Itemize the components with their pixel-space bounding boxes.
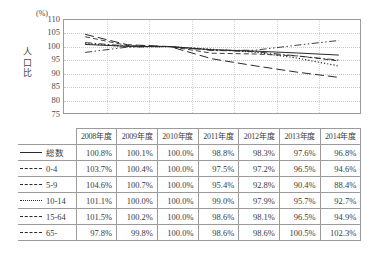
table-row: 10-14101.1%100.0%100.0%99.0%97.9%95.7%92… xyxy=(18,193,361,209)
table-row: 総数100.8%100.1%100.0%98.8%98.3%97.6%96.8% xyxy=(18,145,361,161)
series-label: 10-14 xyxy=(46,196,66,206)
line-style-swatch-icon xyxy=(20,200,42,201)
line-style-swatch-icon xyxy=(20,152,42,153)
series-label: 15-64 xyxy=(46,212,66,222)
cell-65--2008年度: 97.8% xyxy=(76,225,117,241)
cell-0-4-2014年度: 94.6% xyxy=(320,161,361,177)
cell-15-64-2011年度: 98.6% xyxy=(198,209,239,225)
series-line-3 xyxy=(85,43,339,65)
cell-総数-2010年度: 100.0% xyxy=(157,145,198,161)
cell-0-4-2013年度: 96.5% xyxy=(279,161,320,177)
cell-15-64-2013年度: 96.5% xyxy=(279,209,320,225)
cell-65--2013年度: 100.5% xyxy=(279,225,320,241)
cell-65--2010年度: 100.0% xyxy=(157,225,198,241)
y-axis-tick: 110 xyxy=(36,14,60,23)
cell-5-9-2010年度: 100.0% xyxy=(157,177,198,193)
cell-65--2009年度: 99.8% xyxy=(117,225,158,241)
table-row: 5-9104.6%100.7%100.0%95.4%92.8%90.4%88.4… xyxy=(18,177,361,193)
legend-cell-15-64: 15-64 xyxy=(18,209,76,225)
cell-10-14-2012年度: 97.9% xyxy=(239,193,280,209)
cell-10-14-2009年度: 100.0% xyxy=(117,193,158,209)
cell-15-64-2009年度: 100.2% xyxy=(117,209,158,225)
cell-5-9-2008年度: 104.6% xyxy=(76,177,117,193)
cell-10-14-2014年度: 92.7% xyxy=(320,193,361,209)
column-header-2013年度: 2013年度 xyxy=(279,129,320,145)
y-axis-tick: 105 xyxy=(36,28,60,37)
cell-15-64-2014年度: 94.9% xyxy=(320,209,361,225)
cell-総数-2011年度: 98.8% xyxy=(198,145,239,161)
cell-0-4-2009年度: 100.4% xyxy=(117,161,158,177)
table-corner-cell xyxy=(18,129,76,145)
column-header-2010年度: 2010年度 xyxy=(157,129,198,145)
cell-10-14-2011年度: 99.0% xyxy=(198,193,239,209)
legend-cell-65-: 65- xyxy=(18,225,76,241)
cell-総数-2013年度: 97.6% xyxy=(279,145,320,161)
column-header-2008年度: 2008年度 xyxy=(76,129,117,145)
line-style-swatch-icon xyxy=(20,216,42,217)
cell-15-64-2010年度: 100.0% xyxy=(157,209,198,225)
plot-area xyxy=(63,19,361,114)
legend-cell-10-14: 10-14 xyxy=(18,193,76,209)
series-label: 総数 xyxy=(46,148,64,158)
cell-15-64-2012年度: 98.1% xyxy=(239,209,280,225)
cell-10-14-2008年度: 101.1% xyxy=(76,193,117,209)
cell-5-9-2013年度: 90.4% xyxy=(279,177,320,193)
cell-65--2011年度: 98.6% xyxy=(198,225,239,241)
cell-5-9-2012年度: 92.8% xyxy=(239,177,280,193)
series-label: 5-9 xyxy=(46,180,57,190)
y-axis-title-char: 口 xyxy=(22,58,33,69)
y-axis-tick: 75 xyxy=(36,109,60,118)
series-label: 0-4 xyxy=(46,164,57,174)
column-header-2014年度: 2014年度 xyxy=(320,129,361,145)
legend-cell-5-9: 5-9 xyxy=(18,177,76,193)
legend-cell-0-4: 0-4 xyxy=(18,161,76,177)
values-table: 2008年度2009年度2010年度2011年度2012年度2013年度2014… xyxy=(18,128,361,241)
y-axis-tick: 85 xyxy=(36,82,60,91)
cell-15-64-2008年度: 101.5% xyxy=(76,209,117,225)
cell-0-4-2012年度: 97.2% xyxy=(239,161,280,177)
cell-総数-2014年度: 96.8% xyxy=(320,145,361,161)
cell-5-9-2014年度: 88.4% xyxy=(320,177,361,193)
table-body: 総数100.8%100.1%100.0%98.8%98.3%97.6%96.8%… xyxy=(18,145,361,241)
table-row: 15-64101.5%100.2%100.0%98.6%98.1%96.5%94… xyxy=(18,209,361,225)
y-axis-title-char: 人 xyxy=(22,47,33,58)
cell-10-14-2013年度: 95.7% xyxy=(279,193,320,209)
cell-総数-2008年度: 100.8% xyxy=(76,145,117,161)
table-row: 65-97.8%99.8%100.0%98.6%98.6%100.5%102.3… xyxy=(18,225,361,241)
cell-10-14-2010年度: 100.0% xyxy=(157,193,198,209)
y-axis-tick: 80 xyxy=(36,95,60,104)
column-header-2012年度: 2012年度 xyxy=(239,129,280,145)
cell-総数-2012年度: 98.3% xyxy=(239,145,280,161)
cell-65--2014年度: 102.3% xyxy=(320,225,361,241)
data-table: 2008年度2009年度2010年度2011年度2012年度2013年度2014… xyxy=(18,128,361,241)
y-axis-tick: 100 xyxy=(36,41,60,50)
series-line-1 xyxy=(85,36,339,60)
column-header-2009年度: 2009年度 xyxy=(117,129,158,145)
line-style-swatch-icon xyxy=(20,232,42,233)
series-lines xyxy=(64,20,360,113)
y-axis-title-char: 比 xyxy=(22,68,33,79)
cell-0-4-2008年度: 103.7% xyxy=(76,161,117,177)
cell-総数-2009年度: 100.1% xyxy=(117,145,158,161)
cell-65--2012年度: 98.6% xyxy=(239,225,280,241)
cell-5-9-2009年度: 100.7% xyxy=(117,177,158,193)
table-row: 0-4103.7%100.4%100.0%97.5%97.2%96.5%94.6… xyxy=(18,161,361,177)
y-axis-tick-labels: 1101051009590858075 xyxy=(36,14,60,120)
population-ratio-figure: (%) 人口比 1101051009590858075 2008年度2009年度… xyxy=(0,0,373,258)
cell-0-4-2010年度: 100.0% xyxy=(157,161,198,177)
y-axis-tick: 90 xyxy=(36,68,60,77)
cell-0-4-2011年度: 97.5% xyxy=(198,161,239,177)
legend-cell-総数: 総数 xyxy=(18,145,76,161)
line-style-swatch-icon xyxy=(20,184,42,185)
cell-5-9-2011年度: 95.4% xyxy=(198,177,239,193)
table-header-row: 2008年度2009年度2010年度2011年度2012年度2013年度2014… xyxy=(18,129,361,145)
y-axis-title: 人口比 xyxy=(22,47,33,79)
line-chart: (%) 人口比 1101051009590858075 xyxy=(0,0,373,131)
y-axis-tick: 95 xyxy=(36,55,60,64)
line-style-swatch-icon xyxy=(20,168,42,169)
column-header-2011年度: 2011年度 xyxy=(198,129,239,145)
series-label: 65- xyxy=(46,228,57,238)
